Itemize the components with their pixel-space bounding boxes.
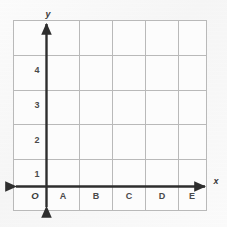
x-tick-label-e: E	[189, 191, 195, 201]
x-tick-label-b: B	[93, 191, 100, 201]
x-tick-label-d: D	[159, 191, 166, 201]
x-tick-label-a: A	[60, 191, 67, 201]
origin-label: O	[31, 190, 39, 201]
x-axis-label: x	[212, 176, 219, 186]
y-tick-label-2: 2	[34, 135, 39, 145]
coordinate-plane-svg: x y O A B C D E 1 2 3 4	[0, 0, 227, 227]
y-tick-label-3: 3	[34, 100, 39, 110]
grid-background	[13, 20, 207, 211]
coordinate-grid-figure: x y O A B C D E 1 2 3 4	[0, 0, 227, 227]
y-tick-label-1: 1	[34, 169, 39, 179]
y-axis-label: y	[44, 9, 51, 19]
x-tick-label-c: C	[126, 191, 133, 201]
y-tick-label-4: 4	[34, 65, 39, 75]
